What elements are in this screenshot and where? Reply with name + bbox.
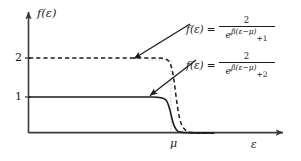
- formula-lower-den-addend: +2: [257, 70, 268, 79]
- formula-upper-den-addend: +1: [257, 34, 268, 43]
- formula-lower: f(ε) = 2 eβ(ε−μ)+2: [186, 52, 275, 78]
- formula-lower-denominator: eβ(ε−μ)+2: [223, 63, 271, 79]
- formula-lower-fraction: 2 eβ(ε−μ)+2: [219, 52, 275, 78]
- formula-lower-lhs: f(ε): [186, 60, 204, 71]
- formula-lower-numerator: 2: [240, 52, 253, 62]
- formula-upper-fraction: 2 eβ(ε−μ)+1: [219, 16, 275, 42]
- formula-upper-numerator: 2: [240, 16, 253, 26]
- y-axis-label: f(ε): [37, 8, 56, 20]
- arrow-to-dashed-curve: [134, 24, 190, 59]
- solid-curve: [29, 97, 214, 133]
- y-tick-label-1: 1: [15, 91, 22, 102]
- formula-upper-equals: =: [207, 24, 216, 35]
- x-axis-label: ε: [251, 139, 257, 150]
- figure-container: f(ε) ε 2 1 μ f(ε) = 2 eβ(ε−μ)+1 f(ε) = 2…: [0, 0, 301, 161]
- x-tick-label-mu: μ: [170, 138, 177, 149]
- formula-upper-den-exponent: β(ε−μ): [231, 27, 256, 36]
- formula-upper-denominator: eβ(ε−μ)+1: [223, 27, 271, 43]
- y-tick-label-2: 2: [15, 52, 22, 63]
- formula-upper-lhs: f(ε): [186, 24, 204, 35]
- formula-upper: f(ε) = 2 eβ(ε−μ)+1: [186, 16, 275, 42]
- formula-lower-den-exponent: β(ε−μ): [231, 63, 256, 72]
- formula-lower-equals: =: [207, 60, 216, 71]
